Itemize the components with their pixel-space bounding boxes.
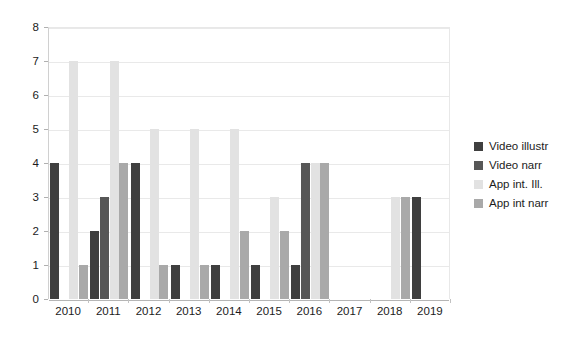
legend-swatch-icon xyxy=(474,180,483,189)
bar-2011-video-narr xyxy=(100,197,109,299)
y-tick-label-5: 5 xyxy=(17,123,39,135)
bar-2012-app-int-narr xyxy=(159,265,168,299)
bar-2018-app-int-narr xyxy=(401,197,410,299)
x-tick-mark-2017 xyxy=(370,299,371,303)
y-tick-mark-6 xyxy=(44,95,48,96)
legend-swatch-icon xyxy=(474,199,483,208)
bar-2015-video-illustr xyxy=(251,265,260,299)
legend-item-app-int-ill[interactable]: App int. Ill. xyxy=(474,175,582,194)
legend-swatch-icon xyxy=(474,142,483,151)
x-tick-label-2019: 2019 xyxy=(417,305,443,317)
y-tick-mark-4 xyxy=(44,163,48,164)
bar-2014-app-int-ill xyxy=(230,129,239,299)
y-tick-mark-0 xyxy=(44,299,48,300)
bar-2018-app-int-ill xyxy=(391,197,400,299)
y-tick-mark-8 xyxy=(44,27,48,28)
legend-label: Video illustr xyxy=(489,141,548,153)
bar-2014-app-int-narr xyxy=(240,231,249,299)
bar-2012-video-illustr xyxy=(131,163,140,299)
gridline-8 xyxy=(49,28,449,29)
legend-swatch-icon xyxy=(474,161,483,170)
bar-2016-video-narr xyxy=(301,163,310,299)
legend-item-video-narr[interactable]: Video narr xyxy=(474,156,582,175)
y-tick-label-3: 3 xyxy=(17,191,39,203)
x-tick-mark-2011 xyxy=(128,299,129,303)
bar-2011-app-int-narr xyxy=(119,163,128,299)
bar-2013-app-int-ill xyxy=(190,129,199,299)
bar-2010-app-int-ill xyxy=(69,61,78,299)
y-tick-label-2: 2 xyxy=(17,225,39,237)
x-tick-mark-2015 xyxy=(289,299,290,303)
bar-2015-app-int-narr xyxy=(280,231,289,299)
bar-2016-app-int-ill xyxy=(311,163,320,299)
y-tick-mark-1 xyxy=(44,265,48,266)
legend-label: App int. Ill. xyxy=(489,179,543,191)
plot-area xyxy=(48,27,450,299)
x-tick-mark-2014 xyxy=(249,299,250,303)
bar-2010-app-int-narr xyxy=(79,265,88,299)
x-tick-label-2012: 2012 xyxy=(136,305,162,317)
x-tick-mark-2013 xyxy=(209,299,210,303)
y-tick-label-7: 7 xyxy=(17,55,39,67)
x-tick-label-2018: 2018 xyxy=(377,305,403,317)
bar-chart: 012345678 201020112012201320142015201620… xyxy=(0,0,585,340)
x-tick-mark-2019 xyxy=(450,299,451,303)
legend-item-app-int-narr[interactable]: App int narr xyxy=(474,194,582,213)
y-tick-label-4: 4 xyxy=(17,157,39,169)
bar-2016-app-int-narr xyxy=(320,163,329,299)
x-tick-label-2014: 2014 xyxy=(216,305,242,317)
x-tick-mark-2010 xyxy=(88,299,89,303)
bar-2019-video-illustr xyxy=(412,197,421,299)
y-tick-mark-5 xyxy=(44,129,48,130)
y-tick-label-0: 0 xyxy=(17,293,39,305)
bar-2010-video-illustr xyxy=(50,163,59,299)
x-tick-label-2017: 2017 xyxy=(337,305,363,317)
y-tick-label-6: 6 xyxy=(17,89,39,101)
x-tick-label-2015: 2015 xyxy=(256,305,282,317)
y-tick-label-8: 8 xyxy=(17,21,39,33)
legend-item-video-illustr[interactable]: Video illustr xyxy=(474,137,582,156)
bar-2014-video-illustr xyxy=(211,265,220,299)
y-tick-label-1: 1 xyxy=(17,259,39,271)
bar-2013-video-illustr xyxy=(171,265,180,299)
legend-label: App int narr xyxy=(489,198,548,210)
x-tick-mark-2016 xyxy=(329,299,330,303)
y-tick-mark-7 xyxy=(44,61,48,62)
bar-2012-app-int-ill xyxy=(150,129,159,299)
x-tick-mark-2012 xyxy=(169,299,170,303)
x-tick-label-2011: 2011 xyxy=(96,305,121,317)
bar-2011-app-int-ill xyxy=(110,61,119,299)
bar-2015-app-int-ill xyxy=(270,197,279,299)
x-tick-label-2013: 2013 xyxy=(176,305,202,317)
y-tick-mark-3 xyxy=(44,197,48,198)
legend-label: Video narr xyxy=(489,160,542,172)
x-tick-mark-2018 xyxy=(410,299,411,303)
y-tick-mark-2 xyxy=(44,231,48,232)
bar-2011-video-illustr xyxy=(90,231,99,299)
x-tick-label-2016: 2016 xyxy=(297,305,323,317)
chart-legend: Video illustrVideo narrApp int. Ill.App … xyxy=(474,137,582,213)
bar-2013-app-int-narr xyxy=(200,265,209,299)
x-tick-label-2010: 2010 xyxy=(55,305,81,317)
bar-2016-video-illustr xyxy=(291,265,300,299)
